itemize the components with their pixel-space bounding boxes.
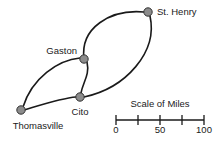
scale-tick-label-50: 50 xyxy=(155,124,166,135)
scale-tick-label-100: 100 xyxy=(196,124,212,135)
map-canvas: St. HenryGastonCitoThomasville Scale of … xyxy=(0,0,219,143)
city-label-gaston: Gaston xyxy=(46,45,77,56)
scale-tick-label-0: 0 xyxy=(113,124,118,135)
cities-group: St. HenryGastonCitoThomasville xyxy=(13,6,197,131)
road-map-figure: St. HenryGastonCitoThomasville Scale of … xyxy=(0,0,219,143)
road-gaston-st-henry xyxy=(84,12,144,59)
road-thomasville-cito xyxy=(24,97,76,110)
city-marker-thomasville[interactable] xyxy=(17,106,25,114)
city-marker-gaston[interactable] xyxy=(80,55,88,63)
city-label-thomasville: Thomasville xyxy=(13,120,64,131)
city-marker-st-henry[interactable] xyxy=(144,8,152,16)
city-label-cito: Cito xyxy=(72,106,89,117)
road-gaston-cito xyxy=(81,62,88,93)
city-marker-cito[interactable] xyxy=(76,93,84,101)
city-label-st-henry: St. Henry xyxy=(157,6,197,17)
road-thomasville-gaston xyxy=(23,58,80,107)
scale-bar-title: Scale of Miles xyxy=(130,98,189,109)
scale-bar: Scale of Miles050100 xyxy=(113,98,212,135)
